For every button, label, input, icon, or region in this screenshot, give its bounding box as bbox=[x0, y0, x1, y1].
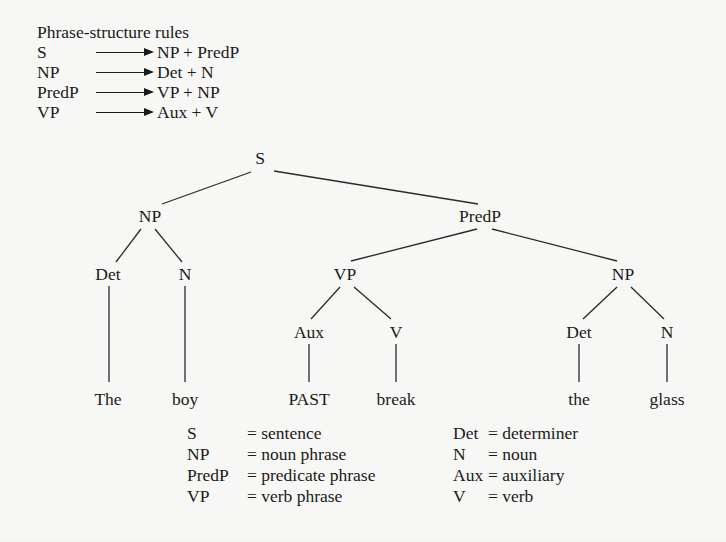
leaf-glass: glass bbox=[650, 389, 685, 409]
edge-vp-v bbox=[354, 287, 391, 319]
legend-abbr: NP bbox=[187, 444, 209, 465]
legend-abbr: Det bbox=[453, 423, 478, 444]
tree-leaves: The boy PAST break the glass bbox=[94, 389, 684, 409]
node-predp: PredP bbox=[459, 206, 501, 226]
node-vp: VP bbox=[334, 264, 357, 284]
node-n: N bbox=[179, 264, 192, 284]
legend-definition: = sentence bbox=[247, 423, 322, 444]
edge-vp-aux bbox=[311, 287, 340, 319]
legend-definition: = auxiliary bbox=[488, 465, 564, 486]
phrase-structure-tree: S NP PredP Det N VP NP Aux V Det N The b… bbox=[0, 0, 726, 542]
edge-predp-np bbox=[492, 229, 617, 261]
legend-abbr: N bbox=[453, 444, 466, 465]
tree-edges bbox=[109, 171, 667, 382]
legend-abbr: Aux bbox=[453, 465, 483, 486]
legend-definition: = verb bbox=[488, 486, 533, 507]
node-det: Det bbox=[95, 264, 120, 284]
legend-definition: = verb phrase bbox=[247, 486, 342, 507]
legend-abbr: VP bbox=[187, 486, 209, 507]
leaf-past: PAST bbox=[288, 389, 329, 409]
edge-predp-vp bbox=[351, 229, 477, 261]
edge-np-det2 bbox=[583, 287, 617, 319]
diagram-page: Phrase-structure rules S NP + PredP NP D… bbox=[0, 0, 726, 542]
legend-abbr: V bbox=[453, 486, 466, 507]
edge-s-predp bbox=[274, 171, 478, 204]
node-aux: Aux bbox=[294, 322, 324, 342]
leaf-the: The bbox=[94, 389, 121, 409]
legend-definition: = noun phrase bbox=[247, 444, 346, 465]
node-s: S bbox=[255, 148, 265, 168]
edge-np-det bbox=[116, 229, 141, 262]
legend-abbr: PredP bbox=[187, 465, 229, 486]
node-det-object: Det bbox=[566, 322, 591, 342]
edge-np-n bbox=[155, 229, 182, 262]
leaf-boy: boy bbox=[172, 389, 199, 409]
legend-definition: = determiner bbox=[488, 423, 578, 444]
node-n-object: N bbox=[661, 322, 674, 342]
legend-abbr: S bbox=[187, 423, 197, 444]
legend-definition: = noun bbox=[488, 444, 537, 465]
edge-np-n2 bbox=[631, 287, 664, 319]
legend-definition: = predicate phrase bbox=[247, 465, 375, 486]
leaf-the-object: the bbox=[568, 389, 590, 409]
edge-s-np bbox=[162, 172, 251, 204]
leaf-break: break bbox=[377, 389, 416, 409]
node-np-object: NP bbox=[612, 264, 635, 284]
node-v: V bbox=[390, 322, 403, 342]
node-np: NP bbox=[139, 206, 162, 226]
